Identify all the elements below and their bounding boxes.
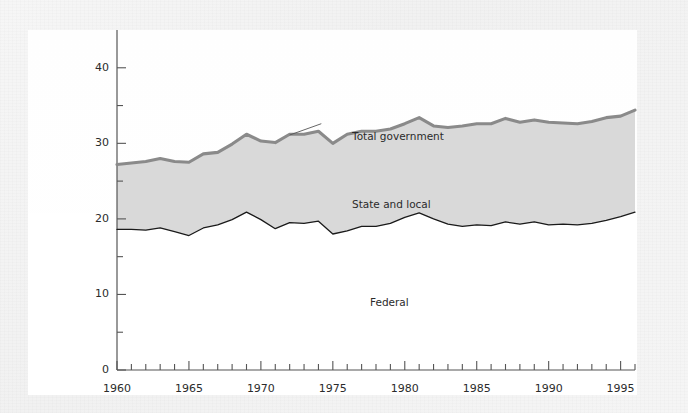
annotation-state-and-local: State and local [352,198,431,210]
x-tick-label-1995: 1995 [599,382,643,395]
x-tick-label-1985: 1985 [455,382,499,395]
y-tick-label-20: 20 [79,212,109,225]
figure-root: Revenue as Percent of GDP 010203040 1960… [0,0,688,413]
y-tick-label-40: 40 [79,61,109,74]
x-tick-label-1970: 1970 [239,382,283,395]
x-tick-label-1960: 1960 [95,382,139,395]
y-axis-ticks [117,68,126,370]
plot-panel [28,30,637,395]
area-band-state-and-local [117,110,635,235]
y-tick-label-0: 0 [79,363,109,376]
x-tick-label-1975: 1975 [311,382,355,395]
annotation-total-government: Total government [352,130,444,142]
y-tick-label-30: 30 [79,136,109,149]
x-tick-label-1965: 1965 [167,382,211,395]
chart-svg [28,30,637,395]
y-tick-label-10: 10 [79,287,109,300]
x-tick-label-1980: 1980 [383,382,427,395]
x-axis-ticks [117,361,635,370]
annotation-federal: Federal [370,296,409,308]
x-tick-label-1990: 1990 [527,382,571,395]
